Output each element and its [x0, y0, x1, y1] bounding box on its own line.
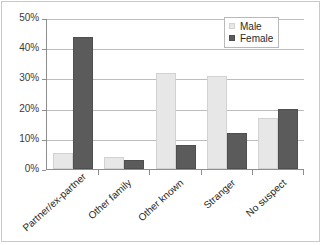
bar-female[interactable]	[124, 160, 144, 169]
bar-female[interactable]	[73, 37, 93, 169]
legend-label-male: Male	[240, 21, 262, 32]
chart-frame: 0% 10% 20% 30% 40% 50%	[1, 1, 320, 242]
bar-group	[47, 19, 98, 169]
bar-female[interactable]	[176, 145, 196, 169]
y-axis: 0% 10% 20% 30% 40% 50%	[2, 19, 46, 170]
y-tick-label: 0%	[25, 163, 39, 174]
legend-swatch-female-icon	[229, 35, 235, 41]
bar-female[interactable]	[227, 133, 247, 169]
legend-item-male[interactable]: Male	[229, 20, 273, 32]
legend-swatch-male-icon	[229, 23, 235, 29]
bar-female[interactable]	[278, 109, 298, 169]
legend-item-female[interactable]: Female	[229, 32, 273, 44]
bar-group	[98, 19, 149, 169]
legend-label-female: Female	[240, 33, 273, 44]
x-axis-labels: Partner/ex-partner Other family Other kn…	[2, 175, 323, 245]
bar-male[interactable]	[207, 76, 227, 169]
y-tick-label: 10%	[19, 133, 39, 144]
bar-male[interactable]	[258, 118, 278, 169]
y-tick-label: 50%	[19, 12, 39, 23]
bar-male[interactable]	[104, 157, 124, 169]
bar-chart: 0% 10% 20% 30% 40% 50%	[0, 0, 323, 245]
y-tick-label: 20%	[19, 103, 39, 114]
bar-group	[150, 19, 201, 169]
legend: Male Female	[224, 17, 279, 48]
bar-male[interactable]	[53, 153, 73, 170]
y-tick-label: 40%	[19, 42, 39, 53]
y-tick-label: 30%	[19, 72, 39, 83]
bar-male[interactable]	[156, 73, 176, 169]
